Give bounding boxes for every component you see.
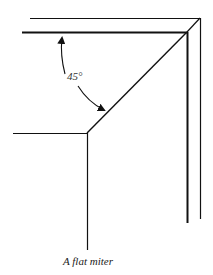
- angle-label: 45°: [66, 70, 83, 82]
- flat-miter-diagram: [0, 0, 213, 275]
- figure-caption: A flat miter: [0, 255, 176, 267]
- miter-joint-line: [87, 32, 187, 133]
- corner-bevel-line: [187, 18, 200, 32]
- angle-arc-upper: [61, 38, 65, 74]
- angle-arc-lower: [78, 86, 104, 110]
